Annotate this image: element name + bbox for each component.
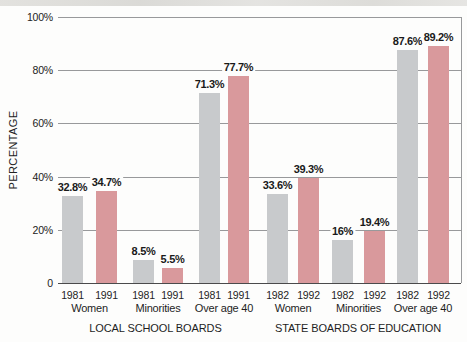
bar-year-label: 1992 bbox=[427, 290, 450, 301]
bar-minorities-1982 bbox=[332, 240, 353, 283]
y-tick-label: 40% bbox=[0, 171, 53, 183]
bar-minorities-1992 bbox=[364, 231, 385, 283]
bar-chart-figure: PERCENTAGE 020%40%60%80%100%32.8%198134.… bbox=[0, 0, 467, 342]
bar-year-label: 1992 bbox=[297, 290, 320, 301]
gridline bbox=[58, 17, 461, 18]
bar-value-label: 19.4% bbox=[358, 216, 392, 228]
bar-value-label: 16% bbox=[330, 225, 355, 237]
category-label: Minorities bbox=[135, 302, 180, 314]
bar-year-label: 1992 bbox=[363, 290, 386, 301]
bar-women-1981 bbox=[62, 196, 83, 283]
bar-year-label: 1981 bbox=[61, 290, 84, 301]
bar-value-label: 8.5% bbox=[130, 245, 158, 257]
bar-year-label: 1991 bbox=[95, 290, 118, 301]
bar-women-1991 bbox=[96, 191, 117, 283]
bar-women-1992 bbox=[298, 178, 319, 283]
bar-year-label: 1991 bbox=[227, 290, 250, 301]
bar-value-label: 33.6% bbox=[261, 179, 295, 191]
y-tick-label: 80% bbox=[0, 64, 53, 76]
bar-over-age-40-1981 bbox=[199, 93, 220, 283]
category-label: Over age 40 bbox=[195, 302, 253, 314]
bar-over-age-40-1991 bbox=[228, 76, 249, 283]
bar-year-label: 1991 bbox=[161, 290, 184, 301]
bar-over-age-40-1992 bbox=[428, 46, 449, 283]
bar-value-label: 87.6% bbox=[391, 35, 425, 47]
y-tick-label: 100% bbox=[0, 11, 53, 23]
bar-year-label: 1982 bbox=[396, 290, 419, 301]
group-label: LOCAL SCHOOL BOARDS bbox=[89, 322, 221, 334]
bar-value-label: 77.7% bbox=[222, 61, 256, 73]
y-tick-label: 20% bbox=[0, 224, 53, 236]
category-label: Women bbox=[275, 302, 312, 314]
bar-year-label: 1982 bbox=[266, 290, 289, 301]
bar-value-label: 71.3% bbox=[193, 78, 227, 90]
bar-value-label: 89.2% bbox=[422, 31, 456, 43]
y-tick-label: 0 bbox=[0, 277, 53, 289]
y-tick-label: 60% bbox=[0, 117, 53, 129]
bar-year-label: 1982 bbox=[331, 290, 354, 301]
bar-year-label: 1981 bbox=[132, 290, 155, 301]
bar-value-label: 32.8% bbox=[56, 181, 90, 193]
bar-value-label: 34.7% bbox=[90, 176, 124, 188]
scan-artifact-band bbox=[0, 0, 467, 6]
bar-year-label: 1981 bbox=[198, 290, 221, 301]
category-label: Minorities bbox=[336, 302, 381, 314]
bar-women-1982 bbox=[267, 194, 288, 283]
bar-value-label: 39.3% bbox=[292, 163, 326, 175]
group-label: STATE BOARDS OF EDUCATION bbox=[275, 322, 441, 334]
bar-minorities-1981 bbox=[133, 260, 154, 283]
bar-minorities-1991 bbox=[162, 268, 183, 283]
x-axis-line bbox=[58, 283, 461, 284]
category-label: Over age 40 bbox=[394, 302, 452, 314]
bar-value-label: 5.5% bbox=[159, 253, 187, 265]
category-label: Women bbox=[71, 302, 108, 314]
right-axis-line bbox=[461, 17, 462, 283]
bar-over-age-40-1982 bbox=[397, 50, 418, 283]
